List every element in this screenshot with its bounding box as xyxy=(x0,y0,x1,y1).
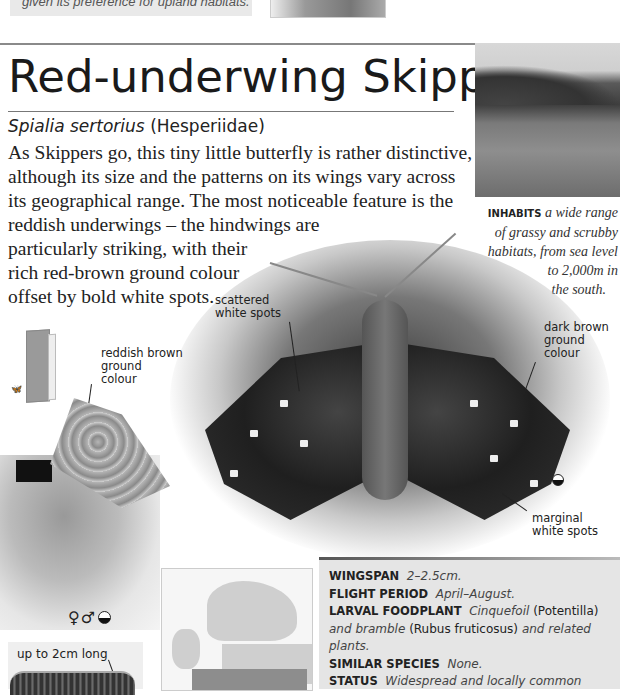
fact-label: STATUS xyxy=(329,674,378,688)
label-scattered-white-spots: scattered white spots xyxy=(215,294,281,320)
description-line: its geographical range. The most noticea… xyxy=(8,189,468,213)
habitat-photo xyxy=(475,43,620,197)
habitat-text: a wide range xyxy=(545,205,618,220)
habitat-text: habitats, from sea level xyxy=(488,244,618,259)
fact-value: None. xyxy=(447,657,482,671)
facts-list: WINGSPAN 2–2.5cm. FLIGHT PERIOD April–Au… xyxy=(329,568,619,691)
fact-label: WINGSPAN xyxy=(329,569,399,583)
description-line: although its size and the patterns on it… xyxy=(8,165,468,189)
fact-value: 2–2.5cm. xyxy=(407,569,462,583)
family-name: (Hesperiidae) xyxy=(150,116,265,136)
species-title: Red-underwing Skipper xyxy=(8,50,533,104)
title-rule xyxy=(8,111,454,112)
fact-flight-period: FLIGHT PERIOD April–August. xyxy=(329,586,619,604)
butterfly-size-icon: 🦋 xyxy=(11,384,22,394)
half-circle-icon xyxy=(98,611,111,624)
label-line: colour xyxy=(101,373,183,386)
map-land-scandinavia xyxy=(207,581,297,641)
fact-value: Cinquefoil xyxy=(469,604,529,618)
label-line: white spots xyxy=(532,525,598,538)
previous-caption-text: given its preference for upland habitats… xyxy=(10,0,252,8)
wing-spot xyxy=(510,420,518,427)
fact-status: STATUS Widespread and locally common xyxy=(329,673,619,691)
label-reddish-brown-ground-colour: reddish brown ground colour xyxy=(101,347,183,386)
label-line: colour xyxy=(544,347,609,360)
wing-spot xyxy=(230,470,238,477)
fact-similar-species: SIMILAR SPECIES None. xyxy=(329,656,619,674)
fact-wingspan: WINGSPAN 2–2.5cm. xyxy=(329,568,619,586)
wing-spot xyxy=(250,430,258,437)
wing-spot xyxy=(530,480,538,487)
label-dark-brown-ground-colour: dark brown ground colour xyxy=(544,321,609,360)
fact-value: and bramble xyxy=(329,622,405,636)
fact-value: April–August. xyxy=(436,587,515,601)
wing-spot xyxy=(470,400,478,407)
distribution-map xyxy=(161,568,313,691)
fact-label: FLIGHT PERIOD xyxy=(329,587,428,601)
label-line: white spots xyxy=(215,307,281,320)
fact-value: Widespread and locally common xyxy=(385,674,581,688)
habitat-text: to 2,000m in xyxy=(548,263,618,278)
wing-spot xyxy=(490,455,498,462)
description-line: reddish underwings – the hindwings are xyxy=(8,213,468,237)
caterpillar-illustration xyxy=(10,671,135,695)
female-male-icon: ♀♂ xyxy=(68,608,96,627)
fact-label: SIMILAR SPECIES xyxy=(329,657,440,671)
habitat-text: the south. xyxy=(552,282,606,297)
season-half-circle-icon xyxy=(552,474,564,486)
habitat-label: INHABITS xyxy=(488,208,542,219)
fact-label: LARVAL FOODPLANT xyxy=(329,604,462,618)
sex-symbols: ♀♂ xyxy=(68,608,111,627)
fact-larval-foodplant: LARVAL FOODPLANT Cinquefoil (Potentilla)… xyxy=(329,603,619,656)
description-line: As Skippers go, this tiny little butterf… xyxy=(8,141,468,165)
scientific-name: Spialia sertorius xyxy=(8,116,145,136)
photo-black-block xyxy=(16,460,52,482)
fact-value: (Potentilla) xyxy=(529,604,598,618)
caterpillar-length-label: up to 2cm long xyxy=(17,647,108,661)
book-icon xyxy=(26,329,50,403)
habitat-text: of grassy and scrubby xyxy=(495,225,618,240)
butterfly-body xyxy=(362,300,408,500)
scientific-name-line: Spialia sertorius (Hesperiidae) xyxy=(8,114,265,138)
map-range-shading xyxy=(192,669,307,690)
wing-spot xyxy=(280,400,288,407)
fact-value: (Rubus fruticosus) xyxy=(405,622,522,636)
previous-entry-map xyxy=(270,0,386,18)
previous-entry-caption: given its preference for upland habitats… xyxy=(10,0,252,16)
map-land-britain xyxy=(172,629,200,669)
label-marginal-white-spots: marginal white spots xyxy=(532,512,598,538)
wing-spot xyxy=(300,440,308,447)
